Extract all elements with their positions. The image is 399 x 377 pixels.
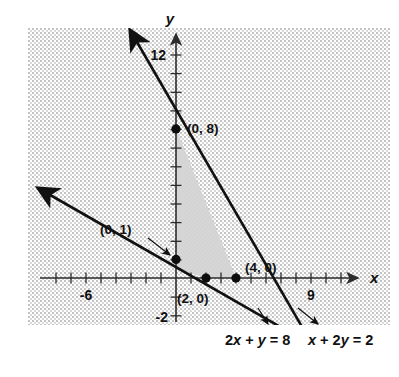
point-0-8	[171, 124, 180, 133]
y-axis-label: y	[165, 10, 175, 27]
equation-label-2x-plus-y-8: 2x + y = 8	[225, 332, 290, 348]
eq1-mid: +	[241, 332, 258, 348]
coordinate-plane: y x 12 -2 -6 9 (0, 8) (0, 1) (2, 0) (4, …	[0, 0, 399, 377]
eq1-equals: =	[266, 332, 283, 348]
x-tick-label-9: 9	[307, 287, 315, 303]
point-0-1-label: (0, 1)	[100, 222, 132, 237]
point-4-0	[231, 273, 240, 282]
eq2-rhs: 2	[365, 332, 373, 348]
y-tick-label-12: 12	[150, 47, 166, 63]
point-4-0-label: (4, 0)	[245, 260, 277, 275]
y-tick-label-neg2: -2	[156, 309, 169, 325]
eq1-lead: 2	[225, 332, 233, 348]
eq2-mid: + 2	[316, 332, 341, 348]
graph-figure: y x 12 -2 -6 9 (0, 8) (0, 1) (2, 0) (4, …	[0, 0, 399, 377]
point-0-8-label: (0, 8)	[187, 121, 219, 136]
eq1-rhs: 8	[282, 332, 290, 348]
equation-label-x-plus-2y-2: x + 2y = 2	[307, 332, 373, 348]
x-tick-label-neg6: -6	[80, 287, 93, 303]
point-2-0-label: (2, 0)	[177, 291, 209, 306]
eq2-equals: =	[349, 332, 366, 348]
point-2-0	[201, 273, 210, 282]
x-axis-label: x	[369, 269, 379, 286]
point-0-1	[171, 255, 180, 264]
